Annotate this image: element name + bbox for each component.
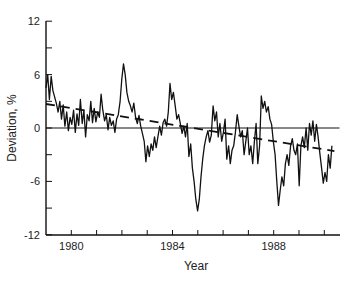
- x-tick-label: 1984: [160, 240, 184, 252]
- y-tick-label: 6: [34, 69, 40, 81]
- x-tick-label: 1980: [59, 240, 83, 252]
- y-tick-label: 12: [28, 15, 40, 27]
- y-tick-label: 0: [34, 122, 40, 134]
- series-deviation: [46, 64, 332, 211]
- x-axis-title: Year: [184, 259, 208, 273]
- plot-lines: [46, 64, 340, 211]
- chart: 1980198419881260-6-12 Year Deviation, %: [0, 0, 350, 286]
- y-axis-title: Deviation, %: [5, 94, 19, 162]
- ticks: 1980198419881260-6-12: [24, 15, 324, 252]
- y-tick-label: -12: [24, 229, 40, 241]
- y-tick-label: -6: [30, 175, 40, 187]
- x-tick-label: 1988: [261, 240, 285, 252]
